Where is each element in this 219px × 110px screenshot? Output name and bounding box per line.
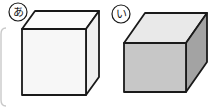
box-i [124, 13, 207, 92]
label-i: い [112, 5, 130, 23]
page-border-fragment [1, 28, 6, 106]
figure-canvas: あ い [0, 0, 219, 110]
label-i-text: い [116, 8, 127, 21]
label-a: あ [9, 3, 27, 21]
label-a-text: あ [13, 6, 24, 19]
box-a-front-face [22, 29, 86, 95]
cube-comparison-figure: あ い [0, 0, 219, 110]
box-i-front-face [124, 43, 186, 92]
box-a [22, 11, 99, 95]
